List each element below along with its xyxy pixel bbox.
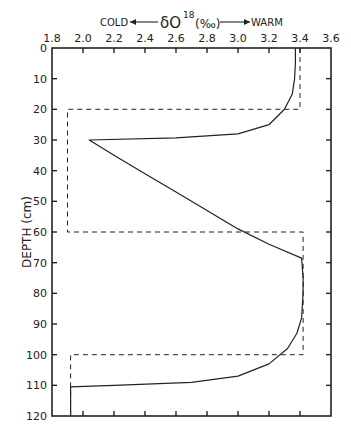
warm-label: WARM [251,17,283,28]
x-tick-label: 3.0 [229,32,247,45]
superscript-18: 18 [183,10,195,20]
y-tick-label: 40 [33,165,47,178]
y-tick-label: 100 [26,349,47,362]
x-tick-label: 2.0 [74,32,92,45]
cold-label: COLD [100,17,128,28]
data-series [68,48,304,416]
y-tick-label: 120 [26,410,47,423]
y-tick-label: 50 [33,195,47,208]
y-tick-label: 90 [33,318,47,331]
right-arrowhead-icon [244,19,250,25]
delta-o18-depth-chart: COLDδO18(‰)WARM 1.82.02.22.42.62.83.03.2… [0,0,351,428]
x-tick-label: 2.4 [136,32,154,45]
x-tick-label: 2.2 [105,32,123,45]
permil-unit: (‰) [195,17,220,31]
y-axis-label: DEPTH (cm) [20,196,34,268]
x-axis-ticks: 1.82.02.22.42.62.83.03.23.43.6 [43,32,340,416]
depth-axis-label: DEPTH (cm) [20,196,34,268]
x-tick-label: 2.8 [198,32,216,45]
y-tick-label: 60 [33,226,47,239]
y-tick-label: 30 [33,134,47,147]
y-tick-label: 20 [33,103,47,116]
x-tick-label: 2.6 [167,32,185,45]
x-tick-label: 3.4 [291,32,309,45]
delta-o-label: δO [160,14,181,32]
x-tick-label: 3.2 [260,32,278,45]
x-tick-label: 3.6 [322,32,340,45]
y-tick-label: 110 [26,379,47,392]
y-tick-label: 70 [33,257,47,270]
left-arrowhead-icon [130,19,136,25]
chart-title: COLDδO18(‰)WARM [100,10,283,32]
dashed-step-line [68,48,304,416]
y-tick-label: 10 [33,73,47,86]
y-tick-label: 0 [40,42,47,55]
y-tick-label: 80 [33,287,47,300]
